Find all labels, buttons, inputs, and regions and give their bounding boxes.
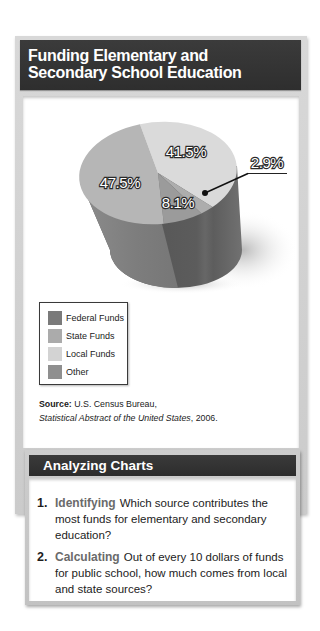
slice-label-federal: 8.1% xyxy=(162,194,195,211)
question-number: 2. xyxy=(37,549,55,597)
legend-swatch-other xyxy=(48,365,62,379)
question-skill: Calculating xyxy=(55,550,120,564)
question-item: 1. IdentifyingWhich source contributes t… xyxy=(37,495,293,543)
analyzing-charts-body: 1. IdentifyingWhich source contributes t… xyxy=(29,478,296,601)
chart-legend: Federal Funds State Funds Local Funds Ot… xyxy=(39,302,128,385)
other-leader-dot xyxy=(202,190,208,196)
question-list: 1. IdentifyingWhich source contributes t… xyxy=(37,495,293,603)
legend-swatch-federal xyxy=(48,311,62,325)
question-number: 1. xyxy=(37,495,55,543)
slice-label-other: 2.9% xyxy=(251,154,284,171)
source-label: Source: xyxy=(39,399,72,409)
legend-swatch-local xyxy=(48,347,62,361)
legend-item-federal-funds: Federal Funds xyxy=(48,310,124,325)
pie-chart: 41.5% 47.5% 8.1% 2.9% xyxy=(0,0,320,300)
legend-label-federal: Federal Funds xyxy=(66,313,124,323)
legend-item-other: Other xyxy=(48,364,89,379)
legend-label-other: Other xyxy=(66,367,89,377)
legend-label-local: Local Funds xyxy=(66,349,115,359)
legend-item-state-funds: State Funds xyxy=(48,328,115,343)
source-publication: Statistical Abstract of the United State… xyxy=(39,413,191,423)
legend-swatch-state xyxy=(48,329,62,343)
question-body: CalculatingOut of every 10 dollars of fu… xyxy=(55,549,293,597)
source-agency: U.S. Census Bureau, xyxy=(74,399,157,409)
legend-label-state: State Funds xyxy=(66,331,115,341)
source-line-2: Statistical Abstract of the United State… xyxy=(39,411,218,425)
question-body: IdentifyingWhich source contributes the … xyxy=(55,495,293,543)
slice-label-state: 47.5% xyxy=(100,174,141,191)
question-skill: Identifying xyxy=(55,496,116,510)
analyzing-charts-title: Analyzing Charts xyxy=(43,455,153,476)
analyzing-charts-header: Analyzing Charts xyxy=(29,455,296,476)
source-year: , 2006. xyxy=(191,413,218,423)
slice-label-local: 41.5% xyxy=(166,143,207,160)
source-line-1: Source: U.S. Census Bureau, xyxy=(39,397,218,411)
legend-item-local-funds: Local Funds xyxy=(48,346,115,361)
source-citation: Source: U.S. Census Bureau, Statistical … xyxy=(39,397,218,425)
analyzing-charts-panel: Analyzing Charts 1. IdentifyingWhich sou… xyxy=(25,450,300,605)
question-item: 2. CalculatingOut of every 10 dollars of… xyxy=(37,549,293,597)
